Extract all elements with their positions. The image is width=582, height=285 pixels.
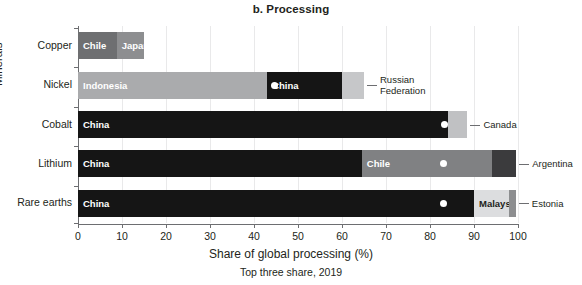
callout-label: Argentina <box>532 158 573 169</box>
chart-subtitle: Top three share, 2019 <box>0 266 582 278</box>
chart-container: b. Processing Minerals ChileJapanIndones… <box>0 0 582 285</box>
bar-segment[interactable] <box>492 150 517 177</box>
bar-row[interactable]: ChinaChile <box>78 150 518 177</box>
x-axis-tick <box>386 224 387 228</box>
gridline <box>518 26 519 223</box>
bar-segment[interactable]: Japan <box>117 32 144 59</box>
bar-segment[interactable]: China <box>78 150 362 177</box>
bar-segment[interactable]: China <box>78 111 439 138</box>
x-axis-tick <box>474 224 475 228</box>
bar-segment-label: Indonesia <box>78 80 132 91</box>
bar-segment[interactable]: Chile <box>78 32 117 59</box>
y-axis-tick <box>74 107 78 108</box>
x-axis-tick <box>430 224 431 228</box>
x-axis-tick <box>166 224 167 228</box>
y-axis-tick <box>74 146 78 147</box>
x-axis-tick-label: 10 <box>116 230 128 242</box>
bar-segment[interactable] <box>448 111 468 138</box>
chart-title: b. Processing <box>0 3 582 15</box>
x-axis-tick-label: 30 <box>204 230 216 242</box>
bar-row[interactable]: ChinaFinland <box>78 111 518 138</box>
callout-label: RussianFederation <box>380 74 425 96</box>
x-axis-tick <box>518 224 519 228</box>
bar-row[interactable]: ChinaMalaysia <box>78 190 518 217</box>
callout-leader-line <box>519 164 529 165</box>
x-axis-tick-label: 70 <box>380 230 392 242</box>
y-axis-category-label: Rare earths <box>0 196 72 208</box>
x-axis-tick <box>342 224 343 228</box>
x-axis-tick-label: 40 <box>248 230 260 242</box>
y-axis-tick <box>74 28 78 29</box>
bar-row[interactable]: IndonesiaChina <box>78 72 518 99</box>
bar-row[interactable]: ChileJapan <box>78 32 518 59</box>
bar-segment-label: China <box>78 119 114 130</box>
bar-segment[interactable]: China <box>267 72 342 99</box>
callout-leader-line <box>367 85 377 86</box>
x-axis-tick <box>210 224 211 228</box>
x-axis-tick <box>122 224 123 228</box>
bar-segment-label: China <box>78 158 114 169</box>
y-axis-category-label: Copper <box>0 39 72 51</box>
value-marker-dot <box>271 82 278 89</box>
y-axis-category-label: Cobalt <box>0 118 72 130</box>
value-marker-dot <box>440 200 447 207</box>
x-axis-tick-label: 50 <box>292 230 304 242</box>
y-axis-category-label: Lithium <box>0 157 72 169</box>
x-axis-tick-label: 20 <box>160 230 172 242</box>
x-axis-tick <box>254 224 255 228</box>
callout-label: Estonia <box>532 198 564 209</box>
bar-segment[interactable]: Malaysia <box>474 190 509 217</box>
bar-segment[interactable]: Indonesia <box>78 72 267 99</box>
plot-area: ChileJapanIndonesiaChinaChinaFinlandChin… <box>78 26 518 223</box>
bar-segment-label: Malaysia <box>474 198 509 209</box>
x-axis-tick <box>78 224 79 228</box>
y-axis-tick <box>74 67 78 68</box>
bar-segment-label: Chile <box>362 158 395 169</box>
bar-segment[interactable] <box>342 72 364 99</box>
bar-segment-label: Chile <box>78 40 111 51</box>
callout-leader-line <box>519 203 529 204</box>
x-axis-tick-label: 0 <box>75 230 81 242</box>
x-axis-tick-label: 80 <box>424 230 436 242</box>
x-axis-tick-label: 100 <box>509 230 527 242</box>
bar-segment-label: Japan <box>117 40 144 51</box>
callout-leader-line <box>470 125 480 126</box>
y-axis-category-label: Nickel <box>0 78 72 90</box>
x-axis-tick <box>298 224 299 228</box>
bar-segment[interactable] <box>509 190 516 217</box>
x-axis-title: Share of global processing (%) <box>0 247 582 261</box>
x-axis-tick-label: 60 <box>336 230 348 242</box>
y-axis-tick <box>74 223 78 224</box>
y-axis-tick <box>74 186 78 187</box>
bar-segment-label: China <box>78 198 114 209</box>
bar-segment[interactable]: Chile <box>362 150 492 177</box>
bar-segment[interactable]: China <box>78 190 474 217</box>
value-marker-dot <box>441 121 448 128</box>
x-axis-tick-label: 90 <box>468 230 480 242</box>
callout-label: Canada <box>483 119 516 130</box>
